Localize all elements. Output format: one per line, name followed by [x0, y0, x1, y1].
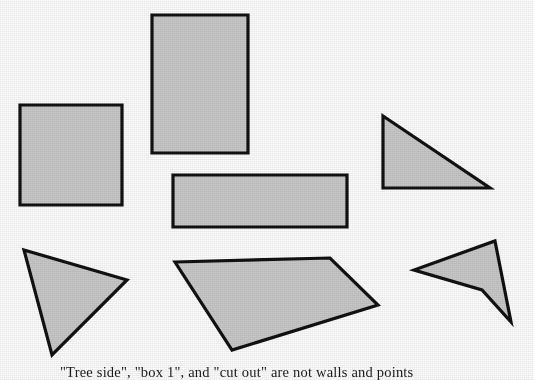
- caption-strip: "Tree side", "box 1", and "cut out" are …: [0, 360, 534, 380]
- shape-right-triangle: [383, 116, 490, 188]
- shape-arrow-dart: [414, 241, 511, 322]
- shape-left-triangle: [24, 250, 127, 355]
- shape-quadrilateral: [175, 258, 378, 350]
- shapes-group: [0, 0, 534, 380]
- figure-canvas: "Tree side", "box 1", and "cut out" are …: [0, 0, 534, 380]
- shape-wide-rectangle: [173, 175, 347, 227]
- shape-square: [20, 105, 122, 205]
- figure-caption: "Tree side", "box 1", and "cut out" are …: [60, 364, 413, 380]
- shape-tall-rectangle: [152, 15, 248, 153]
